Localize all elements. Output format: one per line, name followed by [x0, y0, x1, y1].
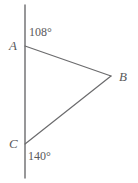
vertex-label-a: A: [9, 39, 17, 52]
segment-cb-line: [25, 76, 111, 144]
angle-measure-label-at-c: 140°: [28, 150, 51, 162]
angle-measure-label-at-a: 108°: [29, 26, 52, 38]
vertex-label-b: B: [119, 70, 127, 83]
segment-ab-line: [25, 46, 111, 76]
vertex-label-c: C: [9, 137, 18, 150]
geometry-figure: A B C 108° 140°: [0, 0, 138, 183]
geometry-canvas: [0, 0, 138, 183]
